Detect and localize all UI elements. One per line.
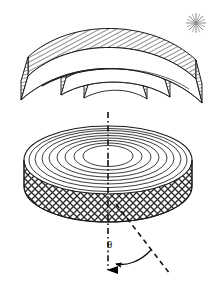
arc-shell-outer: [21, 28, 202, 103]
theta-angle-arc: [116, 250, 151, 264]
theta-label: θ: [107, 239, 112, 250]
figure-container: θ: [0, 0, 217, 286]
upper-arc-assembly: [21, 28, 202, 103]
starburst-icon: [187, 14, 206, 33]
